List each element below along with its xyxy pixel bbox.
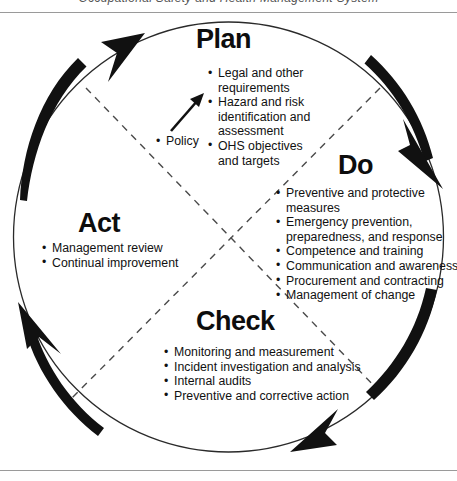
list-item: Incident investigation and analysis — [164, 360, 361, 375]
arc-act-to-plan — [20, 58, 87, 201]
policy-arrow-shaft — [171, 100, 198, 131]
arc-check-to-act — [26, 330, 104, 436]
list-item: Procurement and contracting — [276, 274, 457, 289]
arc-plan-to-do — [365, 55, 434, 162]
list-item: Emergency prevention,preparedness, and r… — [276, 215, 457, 244]
list-item: Preventive and protectivemeasures — [276, 186, 457, 215]
list-item: Legal and other requirements — [208, 66, 322, 95]
phase-title-do: Do — [338, 152, 373, 179]
list-item: Continual improvement — [42, 256, 178, 271]
figure-canvas: Occupational Safety and Health Managemen… — [0, 0, 457, 481]
list-item: Internal audits — [164, 374, 361, 389]
list-item: Management of change — [276, 288, 457, 303]
list-item: Competence and training — [276, 244, 457, 259]
list-item: OHS objectives and targets — [208, 139, 322, 168]
list-item: Hazard and risk identification and asses… — [208, 95, 322, 139]
phase-list-do: Preventive and protectivemeasures Emerge… — [276, 186, 457, 303]
phase-title-plan: Plan — [196, 26, 251, 53]
policy-bullet-label: Policy — [156, 134, 199, 148]
phase-title-check: Check — [196, 308, 275, 335]
list-item: Management review — [42, 241, 178, 256]
list-item: Preventive and corrective action — [164, 389, 361, 404]
phase-list-act: Management review Continual improvement — [42, 241, 178, 270]
arrowhead-check — [290, 409, 338, 452]
phase-list-plan: Legal and other requirements Hazard and … — [208, 66, 322, 168]
phase-list-check: Monitoring and measurement Incident inve… — [164, 345, 361, 403]
list-item: Monitoring and measurement — [164, 345, 361, 360]
phase-title-act: Act — [78, 210, 120, 237]
arrowhead-plan — [101, 33, 145, 82]
list-item: Communication and awareness — [276, 259, 457, 274]
arc-do-to-check — [366, 288, 437, 400]
